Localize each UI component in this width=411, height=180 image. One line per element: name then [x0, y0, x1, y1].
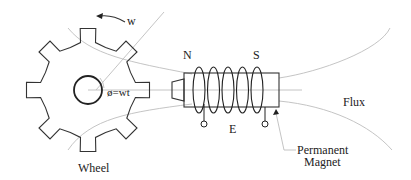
rotation-label: w — [127, 14, 136, 28]
flux-line-lower-left — [68, 104, 192, 150]
flux-line-upper-right — [279, 28, 390, 78]
wheel-label: Wheel — [78, 161, 110, 175]
terminal-right — [262, 121, 268, 127]
angle-label: ø=wt — [107, 86, 130, 98]
north-pole-label: N — [183, 48, 192, 62]
pickup-diagram: w ø=wt N S E Flux Wheel Permanent Magnet — [0, 0, 411, 180]
terminal-left — [201, 121, 207, 127]
flux-label: Flux — [343, 95, 365, 109]
south-pole-label: S — [253, 48, 260, 62]
magnet-label-line2: Magnet — [304, 155, 341, 169]
rotation-arrowhead-icon — [96, 13, 103, 19]
magnet-leader-arrowhead-icon — [273, 109, 279, 115]
rotation-arrow — [100, 16, 125, 22]
magnet-leader-line — [276, 113, 296, 150]
output-voltage-label: E — [229, 122, 236, 136]
